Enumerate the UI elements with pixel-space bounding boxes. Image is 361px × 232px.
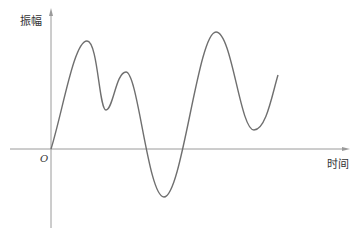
y-axis-label: 振幅 <box>20 12 42 28</box>
waveform-curve <box>51 32 278 197</box>
origin-label: O <box>40 153 48 164</box>
x-axis-label: 时间 <box>327 155 349 171</box>
y-axis-arrow-icon <box>49 8 53 16</box>
x-axis-arrow-icon <box>342 147 350 151</box>
waveform-diagram <box>0 0 361 232</box>
